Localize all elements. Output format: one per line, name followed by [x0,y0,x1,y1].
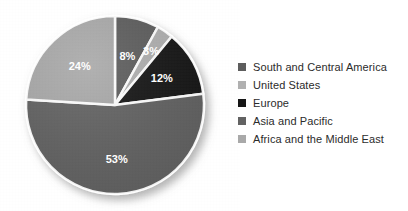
legend-item-label: United States [253,79,320,91]
legend-item[interactable]: Europe [238,94,408,112]
legend-item[interactable]: South and Central America [238,58,408,76]
pie-chart-figure: 8%3%12%53%24% South and Central AmericaU… [0,0,408,211]
pie-slice-value-label: 12% [151,72,173,84]
pie-slice-value-label: 53% [106,153,128,165]
legend-item[interactable]: United States [238,76,408,94]
pie-slice-value-label: 24% [69,60,91,72]
legend-color-swatch [238,63,246,71]
pie-slice-value-label: 3% [143,45,159,57]
legend-item-label: Asia and Pacific [253,115,333,127]
pie-shading-overlay [26,16,204,194]
legend-item-label: South and Central America [253,61,387,73]
legend-item[interactable]: Asia and Pacific [238,112,408,130]
legend-item-label: Europe [253,97,289,109]
legend-color-swatch [238,117,246,125]
legend-item[interactable]: Africa and the Middle East [238,130,408,148]
pie-chart-plot-area: 8%3%12%53%24% [0,0,240,211]
legend-color-swatch [238,81,246,89]
pie-chart-svg: 8%3%12%53%24% [0,0,240,211]
pie-slice-value-label: 8% [119,50,135,62]
chart-legend: South and Central AmericaUnited StatesEu… [238,58,408,148]
legend-color-swatch [238,135,246,143]
legend-item-label: Africa and the Middle East [253,133,384,145]
legend-color-swatch [238,99,246,107]
